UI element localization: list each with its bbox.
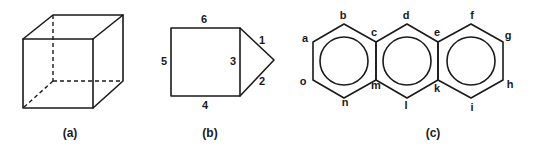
edge-label-2: 2 [259, 75, 265, 87]
fused-rings-figure [313, 24, 503, 98]
cube-top-face [23, 15, 123, 39]
cube-figure [23, 15, 123, 108]
vertex-label-m: m [371, 79, 381, 91]
edge-label-3: 3 [230, 55, 236, 67]
cube-front-face [23, 39, 93, 108]
vertex-label-i: i [470, 101, 473, 113]
figure-canvas: (a) 6 5 3 4 1 2 (b) a b c d e f g h i k … [0, 0, 533, 150]
vertex-label-d: d [403, 9, 410, 21]
caption-a: (a) [63, 126, 78, 140]
vertex-label-o: o [300, 75, 307, 87]
caption-c: (c) [426, 126, 441, 140]
caption-b: (b) [202, 126, 217, 140]
vertex-label-h: h [507, 78, 514, 90]
vertex-label-l: l [404, 99, 407, 111]
edge-label-4: 4 [202, 99, 209, 111]
vertex-label-k: k [434, 82, 441, 94]
vertex-label-a: a [302, 32, 309, 44]
aromatic-circle-1 [320, 37, 368, 85]
edge-label-5: 5 [161, 55, 167, 67]
aromatic-circle-2 [383, 37, 431, 85]
triangle-shape [240, 28, 274, 96]
hexagon-ring-1 [313, 24, 376, 98]
hexagon-ring-2 [376, 24, 438, 98]
vertex-label-g: g [505, 29, 512, 41]
edge-label-6: 6 [201, 13, 207, 25]
vertex-label-e: e [434, 26, 440, 38]
vertex-label-f: f [470, 9, 474, 21]
vertex-label-n: n [342, 96, 349, 108]
cube-right-face [93, 15, 123, 108]
vertex-label-c: c [371, 26, 377, 38]
aromatic-circle-3 [447, 37, 495, 85]
edge-label-1: 1 [259, 34, 265, 46]
vertex-label-b: b [340, 9, 347, 21]
cube-hidden-edge-diagonal [23, 81, 53, 108]
